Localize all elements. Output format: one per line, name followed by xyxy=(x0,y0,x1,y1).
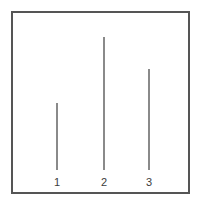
figure-root: 1 2 3 xyxy=(0,0,202,206)
bar-line-1 xyxy=(56,103,58,170)
bar-label-2: 2 xyxy=(96,177,112,188)
plot-frame: 1 2 3 xyxy=(11,11,190,194)
bar-label-3: 3 xyxy=(141,177,157,188)
bar-line-2 xyxy=(103,37,105,170)
bar-label-1: 1 xyxy=(49,177,65,188)
bar-line-3 xyxy=(148,69,150,170)
